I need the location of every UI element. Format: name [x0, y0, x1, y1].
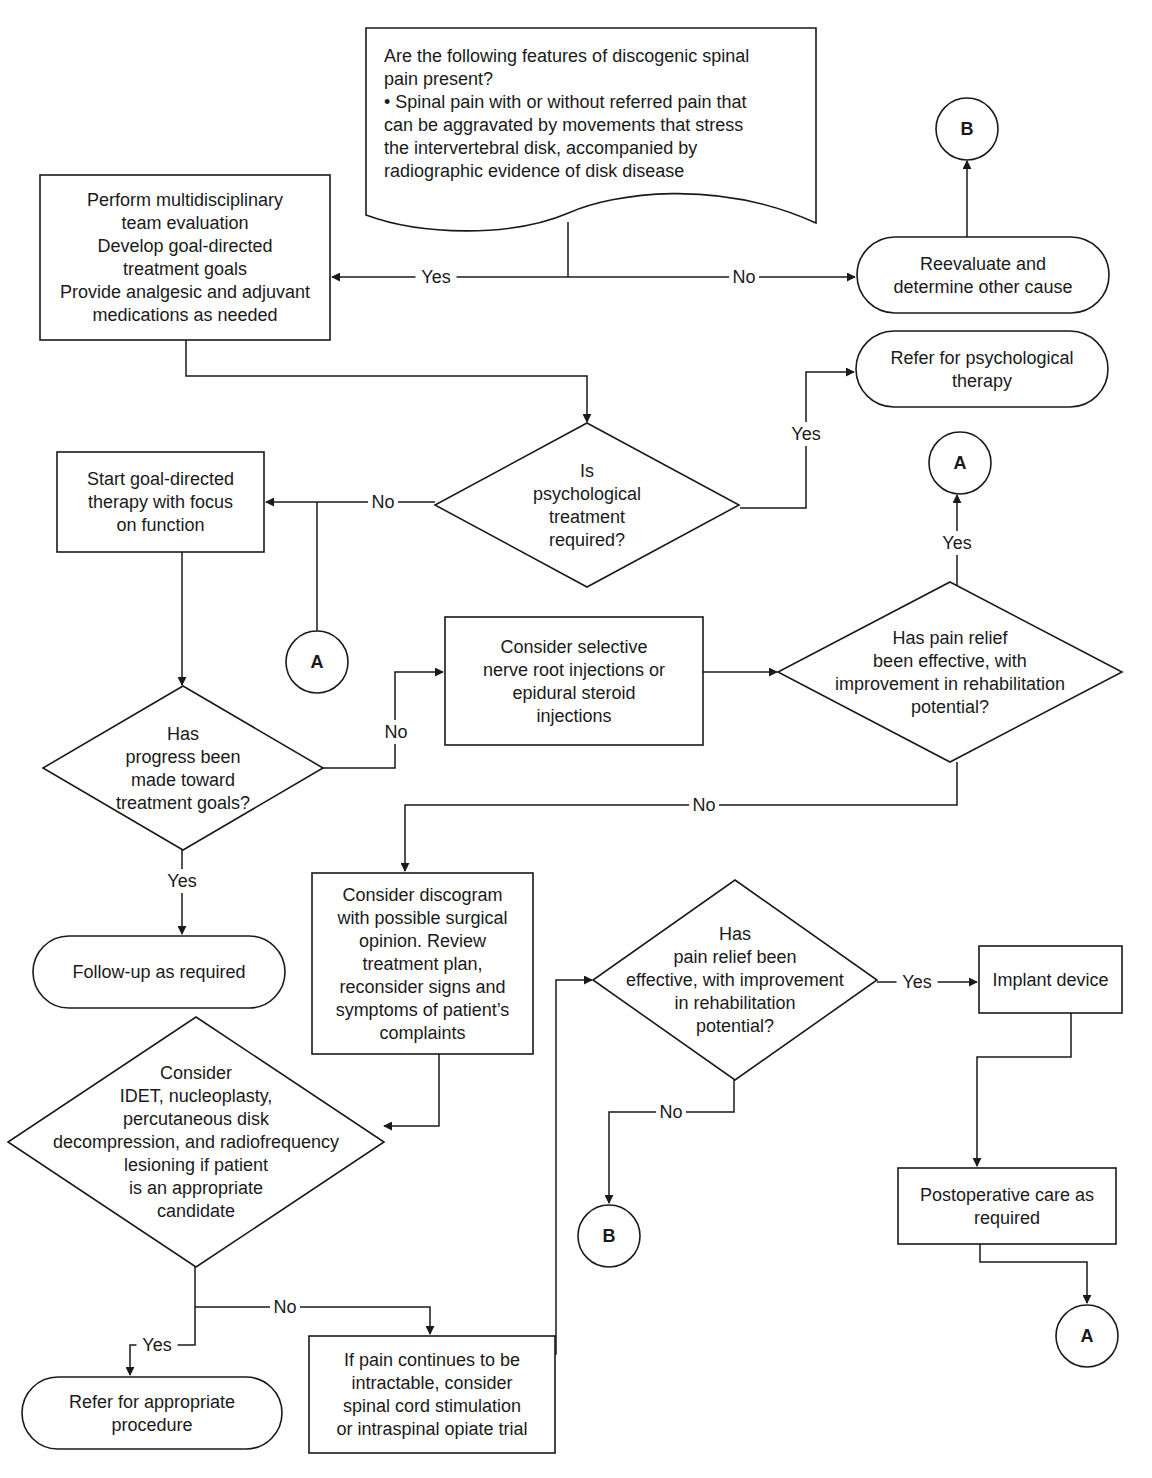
node-followup: Follow-up as required [33, 936, 285, 1008]
label-relief2-yes: Yes [897, 970, 938, 994]
node-text-line: the intervertebral disk, accompanied by [384, 138, 697, 158]
label-idet-no: No [270, 1295, 300, 1319]
connector-label: A [311, 652, 324, 672]
nodes-layer: Are the following features of discogenic… [8, 28, 1122, 1453]
node-text-line: reconsider signs and [339, 977, 505, 997]
edge-implant-to-postop [977, 1013, 1071, 1166]
node-text-line: medications as needed [92, 305, 277, 325]
edge-label-text: No [384, 722, 407, 742]
node-text-line: treatment [549, 507, 625, 527]
node-text-line: spinal cord stimulation [343, 1396, 521, 1416]
node-text-line: If pain continues to be [344, 1350, 520, 1370]
node-text-line: Has [719, 924, 751, 944]
edge-discogram-to-idet [384, 1054, 439, 1126]
node-text-line: Consider [160, 1063, 232, 1083]
node-text-line: pain present? [384, 69, 493, 89]
node-q-pain-relief-1: Has pain reliefbeen effective, withimpro… [778, 582, 1122, 762]
node-q-pain-relief-2: Haspain relief beeneffective, with impro… [593, 880, 877, 1080]
node-refer-procedure: Refer for appropriateprocedure [22, 1377, 282, 1449]
node-text-line: symptoms of patient’s [336, 1000, 510, 1020]
node-text-line: opinion. Review [359, 931, 487, 951]
node-text-line: Has pain relief [892, 628, 1008, 648]
node-goal-directed-therapy: Start goal-directedtherapy with focuson … [57, 452, 264, 552]
terminal-box [22, 1377, 282, 1449]
label-progress-yes: Yes [162, 869, 203, 893]
edge-label-text: Yes [942, 533, 971, 553]
connector-a-bottom: A [1056, 1305, 1118, 1367]
node-text-line: potential? [911, 697, 989, 717]
edge-label-text: Yes [167, 871, 196, 891]
node-q-psych-treatment: Ispsychologicaltreatmentrequired? [435, 423, 739, 587]
node-reevaluate-other-cause: Reevaluate anddetermine other cause [857, 237, 1109, 313]
node-text-line: Are the following features of discogenic… [384, 46, 749, 66]
node-text-line: with possible surgical [336, 908, 507, 928]
edge-relief1-no [405, 762, 957, 871]
node-text-line: on function [116, 515, 204, 535]
connector-label: B [603, 1226, 616, 1246]
label-idet-yes: Yes [137, 1333, 178, 1357]
node-scs-trial: If pain continues to beintractable, cons… [309, 1336, 555, 1453]
node-text-line: Develop goal-directed [97, 236, 272, 256]
edge-eval-to-psych [186, 340, 587, 422]
edge-label-text: Yes [791, 424, 820, 444]
edge-label-text: No [732, 267, 755, 287]
node-text-line: lesioning if patient [124, 1155, 268, 1175]
label-relief1-no: No [689, 793, 719, 817]
node-text-line: Consider selective [500, 637, 647, 657]
node-text-line: Implant device [992, 970, 1108, 990]
terminal-box [857, 237, 1109, 313]
connector-a-left: A [286, 631, 348, 693]
node-text-line: percutaneous disk [123, 1109, 270, 1129]
node-text-line: injections [536, 706, 611, 726]
node-text-line: Start goal-directed [87, 469, 234, 489]
node-text-line: Refer for appropriate [69, 1392, 235, 1412]
node-text-line: Refer for psychological [890, 348, 1073, 368]
process-box [898, 1168, 1116, 1244]
edge-label-text: No [692, 795, 715, 815]
edge-postop-to-a [980, 1244, 1087, 1303]
node-q-discogenic: Are the following features of discogenic… [366, 28, 816, 231]
node-text-line: Consider discogram [342, 885, 502, 905]
node-text-line: procedure [111, 1415, 192, 1435]
node-text-line: team evaluation [121, 213, 248, 233]
node-text-line: treatment plan, [362, 954, 482, 974]
connector-b-bottom: B [578, 1205, 640, 1267]
node-text-line: decompression, and radiofrequency [53, 1132, 339, 1152]
node-text-line: required? [549, 530, 625, 550]
label-relief2-no: No [656, 1100, 686, 1124]
label-progress-no: No [381, 720, 411, 744]
node-text-line: epidural steroid [512, 683, 635, 703]
node-text-line: IDET, nucleoplasty, [120, 1086, 273, 1106]
flowchart-canvas: YesNoYesNoYesNoNoYesYesNoNoYes Are the f… [0, 0, 1152, 1478]
node-text-line: Provide analgesic and adjuvant [60, 282, 310, 302]
node-text-line: or intraspinal opiate trial [336, 1419, 527, 1439]
label-psych-yes: Yes [786, 422, 827, 446]
node-text-line: can be aggravated by movements that stre… [384, 115, 743, 135]
node-text-line: therapy with focus [88, 492, 233, 512]
node-text-line: been effective, with [873, 651, 1027, 671]
node-text-line: Reevaluate and [920, 254, 1046, 274]
node-discogram: Consider discogramwith possible surgical… [312, 873, 533, 1054]
edge-scs-to-relief2 [555, 980, 592, 1354]
connector-label: A [954, 453, 967, 473]
node-text-line: improvement in rehabilitation [835, 674, 1065, 694]
node-text-line: in rehabilitation [674, 993, 795, 1013]
node-text-line: potential? [696, 1016, 774, 1036]
node-text-line: psychological [533, 484, 641, 504]
edge-label-text: No [371, 492, 394, 512]
terminal-box [856, 331, 1108, 407]
label-discogenic-yes: Yes [416, 265, 457, 289]
node-text-line: Perform multidisciplinary [87, 190, 283, 210]
edge-relief2-no [609, 1080, 734, 1203]
node-nerve-root-injections: Consider selectivenerve root injections … [445, 617, 703, 745]
node-text-line: Follow-up as required [72, 962, 245, 982]
node-text-line: treatment goals? [116, 793, 250, 813]
node-postop-care: Postoperative care asrequired [898, 1168, 1116, 1244]
connector-b-top: B [936, 98, 998, 160]
node-text-line: determine other cause [893, 277, 1072, 297]
decision-diamond [435, 423, 739, 587]
node-text-line: • Spinal pain with or without referred p… [384, 92, 747, 112]
label-psych-no: No [368, 490, 398, 514]
edge-label-text: Yes [421, 267, 450, 287]
node-q-progress: Hasprogress beenmade towardtreatment goa… [43, 686, 323, 850]
